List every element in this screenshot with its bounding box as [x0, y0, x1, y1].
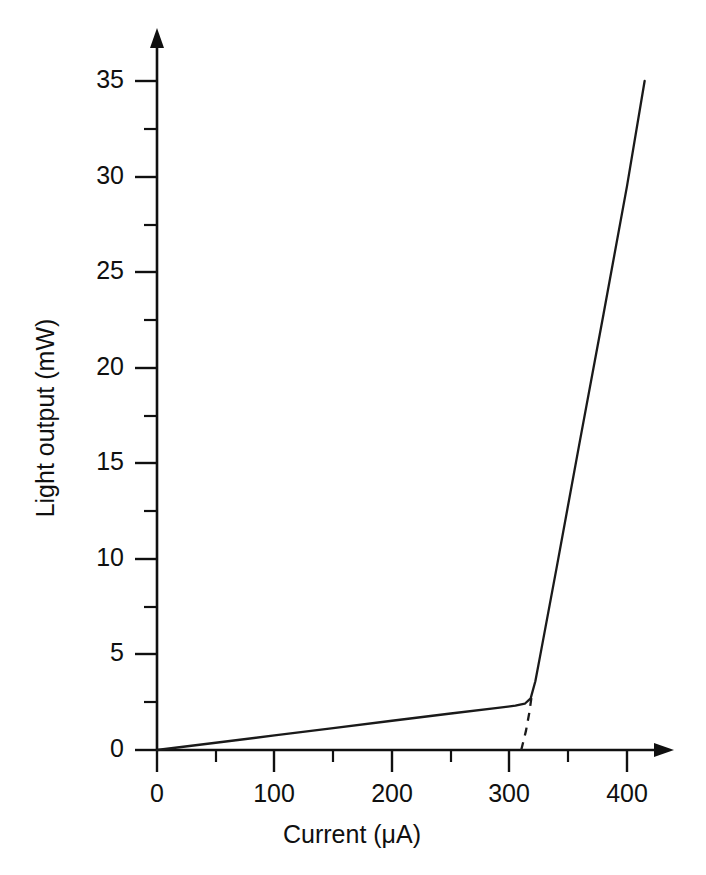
y-tick-label-35: 35 [96, 65, 124, 93]
y-tick-label-25: 25 [96, 256, 124, 284]
y-tick-label-5: 5 [110, 638, 124, 666]
y-tick-label-20: 20 [96, 352, 124, 380]
y-axis-title: Light output (mW) [31, 319, 59, 518]
x-tick-label-0: 0 [150, 779, 164, 807]
chart-figure: 0 5 10 15 20 25 30 35 0 100 200 300 400 … [0, 0, 706, 875]
y-tick-label-30: 30 [96, 161, 124, 189]
x-tick-label-400: 400 [606, 779, 648, 807]
light-current-characteristic-chart: 0 5 10 15 20 25 30 35 0 100 200 300 400 … [0, 0, 706, 875]
x-tick-label-100: 100 [253, 779, 295, 807]
y-tick-label-0: 0 [110, 734, 124, 762]
y-tick-label-15: 15 [96, 447, 124, 475]
x-tick-label-200: 200 [371, 779, 413, 807]
y-tick-label-10: 10 [96, 543, 124, 571]
chart-background [0, 0, 706, 875]
x-tick-label-300: 300 [488, 779, 530, 807]
x-axis-title: Current (μA) [283, 820, 421, 848]
